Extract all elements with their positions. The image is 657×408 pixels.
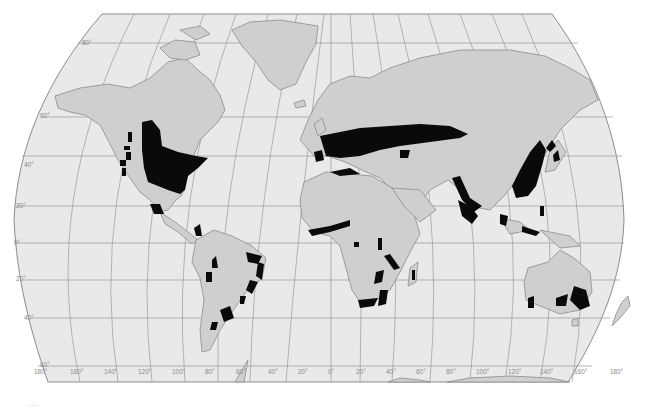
lon-label-20e: 20° [356, 368, 366, 375]
lon-label-120w: 120° [138, 368, 152, 375]
lon-label-160e: 160° [574, 368, 588, 375]
lat-label-40n: 40° [24, 161, 34, 168]
lon-label-80w: 80° [205, 368, 215, 375]
lon-label-120e: 120° [508, 368, 522, 375]
lat-label-60s: 60° [40, 361, 50, 368]
lon-label-80e: 80° [446, 368, 456, 375]
lat-label-20n: 20° [16, 202, 26, 209]
lon-label-100e: 100° [476, 368, 490, 375]
lon-label-40e: 40° [386, 368, 396, 375]
lon-label-180e: 180° [610, 368, 624, 375]
lon-label-0: 0° [328, 368, 335, 375]
lon-label-60e: 60° [416, 368, 426, 375]
lon-label-100w: 100° [172, 368, 186, 375]
lon-label-180w: 180° [34, 368, 48, 375]
lon-label-140e: 140° [540, 368, 554, 375]
lat-label-60n: 60° [40, 112, 50, 119]
lon-label-140w: 140° [104, 368, 118, 375]
map-caption: ... [28, 398, 39, 408]
lon-label-20w: 20° [298, 368, 308, 375]
lat-label-20s: 20° [16, 275, 26, 282]
lat-label-80n: 80° [82, 39, 92, 46]
lon-label-40w: 40° [268, 368, 278, 375]
lon-label-160w: 160° [70, 368, 84, 375]
lat-label-0: 0° [14, 239, 21, 246]
lat-label-40s: 40° [24, 314, 34, 321]
lon-label-60w: 60° [236, 368, 246, 375]
world-map: 80° 60° 40° 20° 0° 20° 40° 60° 180° 160°… [0, 0, 657, 408]
